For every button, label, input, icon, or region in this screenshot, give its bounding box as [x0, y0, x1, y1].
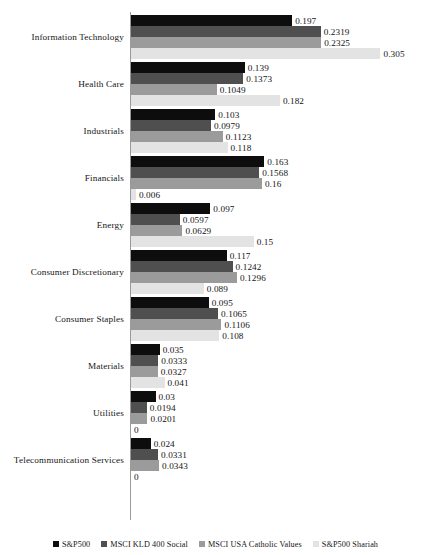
bar[interactable]	[131, 15, 292, 26]
bar-value-label: 0.03	[159, 391, 175, 402]
bar-row: 0.0333	[131, 355, 431, 366]
bar[interactable]	[131, 377, 165, 388]
chart-legend: S&P500MSCI KLD 400 SocialMSCI USA Cathol…	[0, 536, 431, 552]
bar-value-label: 0.163	[267, 156, 288, 167]
bar-row: 0.089	[131, 283, 431, 294]
bar-value-label: 0.097	[213, 203, 234, 214]
bar-row: 0.118	[131, 142, 431, 153]
category-label: Consumer Staples	[0, 296, 124, 343]
bar[interactable]	[131, 438, 151, 449]
bar-row: 0.2319	[131, 26, 431, 37]
bar[interactable]	[131, 203, 210, 214]
bar[interactable]	[131, 297, 209, 308]
bar[interactable]	[131, 402, 147, 413]
legend-label: S&P500 Shariah	[322, 540, 378, 549]
bar-value-label: 0.0597	[183, 214, 209, 225]
legend-item[interactable]: MSCI KLD 400 Social	[101, 540, 188, 549]
bar[interactable]	[131, 261, 233, 272]
bar-row: 0.305	[131, 48, 431, 59]
bar[interactable]	[131, 283, 204, 294]
bar-row: 0.03	[131, 391, 431, 402]
legend-item[interactable]: MSCI USA Catholic Values	[199, 540, 302, 549]
bar-row: 0.035	[131, 344, 431, 355]
category-label: Consumer Discretionary	[0, 249, 124, 296]
legend-label: S&P500	[62, 540, 90, 549]
bar-value-label: 0.0979	[214, 120, 240, 131]
bar-stack: 0.1630.15680.160.006	[131, 156, 431, 201]
legend-swatch-icon	[101, 541, 107, 547]
bar-row: 0.0331	[131, 449, 431, 460]
bar[interactable]	[131, 178, 262, 189]
bar-row: 0.1242	[131, 261, 431, 272]
bar[interactable]	[131, 167, 259, 178]
bar[interactable]	[131, 37, 321, 48]
bar[interactable]	[131, 62, 245, 73]
bar-value-label: 0.15	[257, 236, 273, 247]
legend-label: MSCI USA Catholic Values	[208, 540, 302, 549]
bar-row: 0.006	[131, 189, 431, 200]
bar[interactable]	[131, 225, 182, 236]
bar-value-label: 0.1065	[221, 308, 247, 319]
bar-row: 0.0979	[131, 120, 431, 131]
bar[interactable]	[131, 131, 223, 142]
bar[interactable]	[131, 214, 180, 225]
bar[interactable]	[131, 156, 264, 167]
bar[interactable]	[131, 236, 254, 247]
bar-row: 0.1049	[131, 84, 431, 95]
legend-item[interactable]: S&P500	[53, 540, 90, 549]
bar-value-label: 0.305	[383, 48, 404, 59]
bar[interactable]	[131, 84, 217, 95]
bar-row: 0.1123	[131, 131, 431, 142]
bar[interactable]	[131, 391, 156, 402]
category-label: Industrials	[0, 108, 124, 155]
bar[interactable]	[131, 449, 158, 460]
bar-row: 0.0201	[131, 413, 431, 424]
bar-value-label: 0.095	[212, 297, 233, 308]
bar-value-label: 0.1242	[236, 261, 262, 272]
bar[interactable]	[131, 189, 136, 200]
bar[interactable]	[131, 95, 280, 106]
bar-row: 0.0343	[131, 460, 431, 471]
bar-value-label: 0.16	[265, 178, 281, 189]
legend-swatch-icon	[199, 541, 205, 547]
bar[interactable]	[131, 308, 218, 319]
bar[interactable]	[131, 48, 380, 59]
bar-value-label: 0.103	[218, 109, 239, 120]
bar[interactable]	[131, 272, 237, 283]
bar-group: Consumer Staples0.0950.10650.11060.108	[0, 296, 431, 343]
bar[interactable]	[131, 109, 215, 120]
bar[interactable]	[131, 330, 219, 341]
bar-row: 0.1373	[131, 73, 431, 84]
bar[interactable]	[131, 413, 147, 424]
bar[interactable]	[131, 250, 227, 261]
bar-row: 0.15	[131, 236, 431, 247]
bar-value-label: 0.1106	[224, 319, 250, 330]
bar-row: 0.1568	[131, 167, 431, 178]
bar[interactable]	[131, 142, 228, 153]
bar[interactable]	[131, 319, 221, 330]
plot-area: Information Technology0.1970.23190.23250…	[0, 12, 431, 522]
bar-row: 0.1106	[131, 319, 431, 330]
bar-value-label: 0.1373	[246, 73, 272, 84]
bar-value-label: 0.035	[163, 344, 184, 355]
bar-value-label: 0.006	[139, 189, 160, 200]
legend-swatch-icon	[313, 541, 319, 547]
bar-row: 0.1296	[131, 272, 431, 283]
bar[interactable]	[131, 355, 158, 366]
bar[interactable]	[131, 366, 158, 377]
bar[interactable]	[131, 73, 243, 84]
bar-stack: 0.0240.03310.03430	[131, 438, 431, 483]
bar-value-label: 0.0333	[161, 355, 187, 366]
bar-stack: 0.030.01940.02010	[131, 391, 431, 436]
bar[interactable]	[131, 460, 159, 471]
bar[interactable]	[131, 120, 211, 131]
legend-item[interactable]: S&P500 Shariah	[313, 540, 378, 549]
bar-value-label: 0.1049	[220, 84, 246, 95]
bar-stack: 0.1390.13730.10490.182	[131, 62, 431, 107]
bar-group: Information Technology0.1970.23190.23250…	[0, 14, 431, 61]
bar-value-label: 0.1123	[226, 131, 252, 142]
bar[interactable]	[131, 344, 160, 355]
bar[interactable]	[131, 26, 321, 37]
category-label: Telecommunication Services	[0, 437, 124, 484]
sector-weights-bar-chart: Information Technology0.1970.23190.23250…	[0, 0, 431, 555]
